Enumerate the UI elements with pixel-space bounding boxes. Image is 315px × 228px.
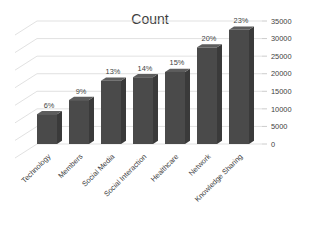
y-tick-label: 20000	[271, 69, 292, 78]
bar-front-face	[69, 100, 89, 144]
y-tick-label: 15000	[271, 87, 292, 96]
bar-value-label: 14%	[138, 64, 153, 73]
bar-side-face	[217, 44, 222, 144]
bar-front-face	[165, 72, 185, 144]
bar-value-label: 6%	[44, 101, 55, 110]
bar-chart: Count 0500010000150002000025000300003500…	[0, 0, 315, 228]
y-tick-label: 35000	[271, 17, 292, 26]
bar-value-label: 9%	[76, 87, 87, 96]
bar-value-label: 23%	[234, 16, 249, 25]
bar	[69, 97, 94, 144]
bar	[229, 27, 254, 144]
bar-front-face	[133, 77, 153, 144]
bar-side-face	[249, 27, 254, 144]
bar-front-face	[101, 81, 121, 144]
y-tick-label: 5000	[271, 122, 287, 131]
y-tick-label: 10000	[271, 105, 292, 114]
bar-front-face	[37, 114, 57, 144]
bar-side-face	[185, 69, 190, 144]
bar-front-face	[197, 47, 217, 144]
bar-value-label: 20%	[202, 34, 217, 43]
y-tick-label: 25000	[271, 52, 292, 61]
bar-value-label: 15%	[170, 58, 185, 67]
chart-canvas: Count 0500010000150002000025000300003500…	[0, 0, 315, 228]
bar	[37, 111, 62, 144]
chart-title: Count	[131, 11, 168, 27]
bar	[165, 69, 190, 144]
bar-value-label: 13%	[106, 67, 121, 76]
bar	[133, 74, 158, 144]
bar-front-face	[229, 30, 249, 144]
y-tick-label: 30000	[271, 34, 292, 43]
bar-side-face	[57, 111, 62, 144]
bar	[197, 44, 222, 144]
y-tick-label: 0	[271, 140, 275, 149]
bar-side-face	[153, 74, 158, 144]
bar-side-face	[121, 78, 126, 144]
bar-side-face	[89, 97, 94, 144]
bar	[101, 78, 126, 144]
